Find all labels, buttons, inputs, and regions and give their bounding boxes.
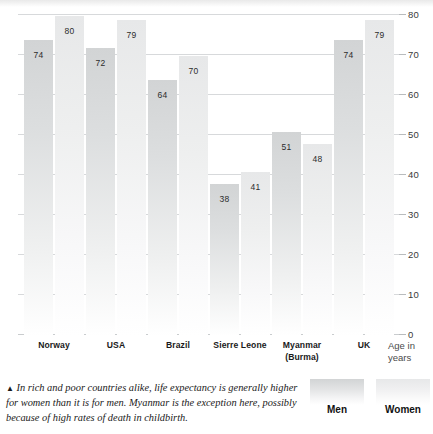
ytick-label-50: 50 bbox=[408, 129, 433, 140]
ytick-label-10: 10 bbox=[408, 289, 433, 300]
bar-fill bbox=[86, 48, 115, 336]
y-axis-title-line1: Age in bbox=[388, 340, 433, 352]
legend-swatch-women bbox=[376, 379, 430, 405]
bar-value-label: 74 bbox=[24, 50, 53, 60]
xlabel-usa: USA bbox=[86, 340, 146, 352]
xlabel-line1: USA bbox=[86, 340, 146, 352]
ytick-dash-50 bbox=[399, 134, 406, 135]
xlabel-line1: Sierre Leone bbox=[206, 340, 274, 352]
ytick-label-20: 20 bbox=[408, 249, 433, 260]
bar-fill bbox=[55, 16, 84, 336]
bar-group-usa: 72 79 bbox=[86, 14, 146, 336]
bar-usa-men[interactable]: 72 bbox=[86, 48, 115, 336]
ytick-dash-80 bbox=[399, 14, 406, 15]
bar-norway-women[interactable]: 80 bbox=[55, 16, 84, 336]
legend-label-women: Women bbox=[376, 404, 430, 415]
ytick-label-80: 80 bbox=[408, 9, 433, 20]
ytick-label-0: 0 bbox=[408, 329, 433, 340]
bar-group-uk: 74 79 bbox=[334, 14, 394, 336]
bar-value-label: 48 bbox=[303, 154, 332, 164]
bar-fill bbox=[241, 172, 270, 336]
ytick-dash-30 bbox=[399, 214, 406, 215]
legend-item-men[interactable]: Men bbox=[310, 379, 364, 415]
bar-value-label: 51 bbox=[272, 142, 301, 152]
xlabel-line2: (Burma) bbox=[272, 352, 332, 364]
bar-fill bbox=[303, 144, 332, 336]
bar-value-label: 79 bbox=[117, 30, 146, 40]
bar-fill bbox=[272, 132, 301, 336]
bar-value-label: 64 bbox=[148, 90, 177, 100]
ytick-dash-20 bbox=[399, 254, 406, 255]
xlabel-myanmar: Myanmar (Burma) bbox=[272, 340, 332, 363]
bar-brazil-women[interactable]: 70 bbox=[179, 56, 208, 336]
legend-swatch-men bbox=[310, 379, 364, 405]
x-axis-labels: Norway USA Brazil Sierre Leone Myanmar (… bbox=[18, 340, 433, 374]
bar-myanmar-men[interactable]: 51 bbox=[272, 132, 301, 336]
bar-fill bbox=[179, 56, 208, 336]
bar-fill bbox=[24, 40, 53, 336]
xlabel-line1: Brazil bbox=[148, 340, 208, 352]
xlabel-brazil: Brazil bbox=[148, 340, 208, 352]
page-top-band bbox=[0, 0, 433, 7]
bar-group-sierre-leone: 38 41 bbox=[210, 14, 270, 336]
ytick-dash-70 bbox=[399, 54, 406, 55]
xlabel-line1: UK bbox=[334, 340, 394, 352]
bar-value-label: 41 bbox=[241, 182, 270, 192]
ytick-label-60: 60 bbox=[408, 89, 433, 100]
ytick-dash-0 bbox=[399, 334, 406, 335]
bar-sierre-leone-men[interactable]: 38 bbox=[210, 184, 239, 336]
bar-value-label: 74 bbox=[334, 50, 363, 60]
bar-fill bbox=[117, 20, 146, 336]
bar-uk-women[interactable]: 79 bbox=[365, 20, 394, 336]
bar-myanmar-women[interactable]: 48 bbox=[303, 144, 332, 336]
ytick-dash-40 bbox=[399, 174, 406, 175]
xlabel-line1: Myanmar bbox=[272, 340, 332, 352]
bar-value-label: 38 bbox=[210, 194, 239, 204]
xlabel-norway: Norway bbox=[24, 340, 84, 352]
chart-caption: ▲ In rich and poor countries alike, life… bbox=[6, 381, 306, 425]
bar-fill bbox=[334, 40, 363, 336]
bar-group-brazil: 64 70 bbox=[148, 14, 208, 336]
xlabel-line1: Norway bbox=[24, 340, 84, 352]
caption-text: In rich and poor countries alike, life e… bbox=[6, 382, 297, 423]
bar-fill bbox=[365, 20, 394, 336]
ytick-dash-10 bbox=[399, 294, 406, 295]
bar-fill bbox=[148, 80, 177, 336]
y-axis-title: Age in years bbox=[388, 340, 433, 364]
bar-sierre-leone-women[interactable]: 41 bbox=[241, 172, 270, 336]
bar-usa-women[interactable]: 79 bbox=[117, 20, 146, 336]
bar-value-label: 80 bbox=[55, 26, 84, 36]
bar-group-myanmar: 51 48 bbox=[272, 14, 332, 336]
xlabel-sierre-leone: Sierre Leone bbox=[206, 340, 274, 352]
bar-uk-men[interactable]: 74 bbox=[334, 40, 363, 336]
triangle-marker-icon: ▲ bbox=[6, 384, 14, 393]
bar-value-label: 70 bbox=[179, 66, 208, 76]
legend-item-women[interactable]: Women bbox=[376, 379, 430, 415]
ytick-label-70: 70 bbox=[408, 49, 433, 60]
bar-value-label: 79 bbox=[365, 30, 394, 40]
chart-plot-area: 74 80 72 79 64 70 38 bbox=[18, 14, 405, 336]
ytick-label-30: 30 bbox=[408, 209, 433, 220]
bar-norway-men[interactable]: 74 bbox=[24, 40, 53, 336]
bar-group-norway: 74 80 bbox=[24, 14, 84, 336]
y-axis-title-line2: years bbox=[388, 352, 433, 364]
bar-brazil-men[interactable]: 64 bbox=[148, 80, 177, 336]
xlabel-uk: UK bbox=[334, 340, 394, 352]
bar-value-label: 72 bbox=[86, 58, 115, 68]
ytick-dash-60 bbox=[399, 94, 406, 95]
chart-legend: Men Women bbox=[310, 379, 433, 429]
ytick-label-40: 40 bbox=[408, 169, 433, 180]
legend-label-men: Men bbox=[310, 404, 364, 415]
bar-fill bbox=[210, 184, 239, 336]
